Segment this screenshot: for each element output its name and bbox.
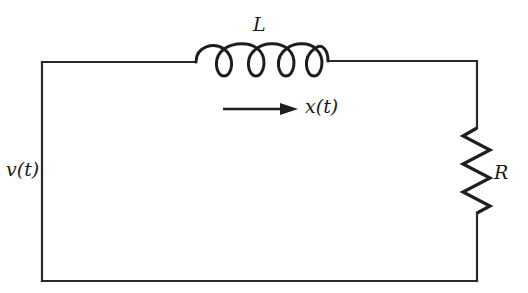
right-wire-upper	[328, 61, 477, 128]
current-arrow-icon	[223, 103, 298, 115]
resistor-label: R	[494, 163, 508, 182]
inductor-label: L	[253, 15, 266, 34]
inductor-icon	[196, 44, 328, 76]
resistor-icon	[463, 128, 490, 213]
source-voltage-label: v(t)	[6, 160, 39, 179]
rl-circuit-diagram	[0, 0, 528, 293]
current-label: x(t)	[305, 97, 338, 116]
